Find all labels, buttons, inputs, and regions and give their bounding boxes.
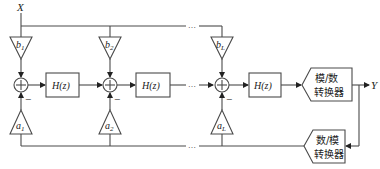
bottom-bus-ellipsis: … bbox=[188, 141, 196, 150]
output-label-y: Y bbox=[371, 79, 379, 91]
filter-h1-label: H(z) bbox=[51, 80, 70, 92]
dac-label-line2: 转换器 bbox=[314, 148, 344, 160]
minus-sign-1: − bbox=[25, 93, 31, 105]
stage-l: bL H(z) − aL bbox=[199, 26, 301, 146]
filter-hl-label: H(z) bbox=[253, 80, 272, 92]
dac-label-line1: 数/模 bbox=[316, 134, 339, 146]
mid-ellipsis: … bbox=[188, 80, 196, 89]
adc-block: 模/数 转换器 bbox=[302, 68, 352, 101]
stage-2: b2 H(z) … − a2 bbox=[99, 26, 196, 146]
sigma-delta-multistage-diagram: X … … b1 H(z) − a1 b2 H(z) … bbox=[0, 0, 380, 169]
adc-label-line2: 转换器 bbox=[314, 86, 344, 98]
filter-h2-label: H(z) bbox=[141, 80, 160, 92]
top-bus-ellipsis: … bbox=[188, 21, 196, 30]
dac-block: 数/模 转换器 bbox=[304, 130, 345, 163]
stage-1: b1 H(z) − a1 bbox=[10, 26, 102, 146]
adc-label-line1: 模/数 bbox=[315, 72, 338, 84]
minus-sign-2: − bbox=[114, 93, 120, 105]
minus-sign-l: − bbox=[226, 93, 232, 105]
input-label-x: X bbox=[16, 1, 25, 13]
